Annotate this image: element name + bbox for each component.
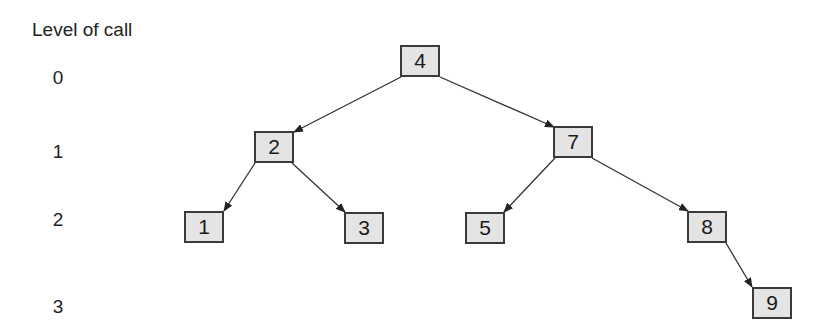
- tree-node-8: 8: [687, 211, 727, 243]
- node-label: 2: [268, 135, 280, 159]
- edge-7-to-5: [504, 158, 555, 212]
- edge-7-to-8: [592, 158, 688, 211]
- tree-node-9: 9: [752, 287, 792, 319]
- node-label: 7: [567, 130, 579, 154]
- edge-2-to-3: [292, 163, 345, 212]
- tree-node-4: 4: [400, 45, 440, 77]
- edge-8-to-9: [726, 243, 752, 287]
- node-label: 4: [414, 49, 426, 73]
- node-label: 8: [701, 215, 713, 239]
- node-label: 9: [766, 291, 778, 315]
- node-label: 1: [198, 215, 210, 239]
- tree-node-7: 7: [553, 126, 593, 158]
- tree-node-3: 3: [344, 212, 384, 244]
- tree-node-1: 1: [184, 211, 224, 243]
- node-label: 3: [358, 216, 370, 240]
- tree-node-5: 5: [465, 212, 505, 244]
- tree-node-2: 2: [254, 131, 294, 163]
- edge-4-to-7: [440, 77, 554, 127]
- edge-2-to-1: [224, 163, 255, 211]
- edge-4-to-2: [294, 77, 401, 132]
- node-label: 5: [479, 216, 491, 240]
